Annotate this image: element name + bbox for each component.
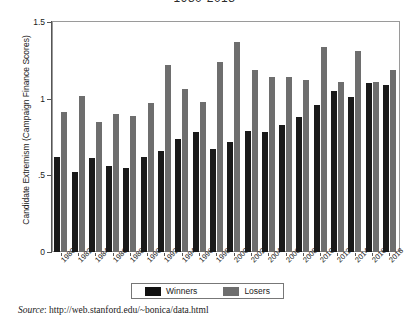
- bar-losers: [182, 89, 188, 252]
- bar-winners: [262, 132, 268, 252]
- chart-legend: Winners Losers: [131, 283, 284, 299]
- bar-losers: [79, 96, 85, 252]
- bar-group: [89, 22, 106, 252]
- y-tick-mark: [47, 175, 51, 176]
- bar-losers: [148, 103, 154, 252]
- source-note: Source: http://web.stanford.edu/~bonica/…: [18, 305, 209, 315]
- bar-losers: [61, 112, 67, 252]
- legend-item-winners: Winners: [145, 286, 197, 296]
- bar-group: [227, 22, 244, 252]
- y-tick-label: 1: [40, 94, 45, 104]
- bar-losers: [269, 77, 275, 252]
- bar-winners: [366, 83, 372, 252]
- bar-group: [262, 22, 279, 252]
- legend-item-losers: Losers: [223, 286, 270, 296]
- bar-group: [331, 22, 348, 252]
- bar-losers: [252, 70, 258, 252]
- bar-group: [279, 22, 296, 252]
- bar-winners: [383, 85, 389, 252]
- source-word: Source: [18, 305, 44, 315]
- bar-group: [383, 22, 400, 252]
- bar-winners: [123, 168, 129, 252]
- chart-title: 1980-2018: [0, 0, 409, 5]
- bar-group: [175, 22, 192, 252]
- bar-winners: [193, 132, 199, 252]
- bar-group: [141, 22, 158, 252]
- y-tick-label: 1.5: [33, 17, 45, 27]
- bar-losers: [390, 70, 396, 252]
- bar-losers: [338, 82, 344, 252]
- bar-winners: [175, 139, 181, 252]
- bar-losers: [217, 62, 223, 252]
- bar-group: [158, 22, 175, 252]
- bar-losers: [286, 77, 292, 252]
- bar-series-container: [53, 22, 399, 252]
- bar-winners: [296, 117, 302, 252]
- bar-winners: [279, 125, 285, 252]
- bar-group: [366, 22, 383, 252]
- bar-winners: [245, 131, 251, 252]
- legend-label-winners: Winners: [166, 286, 197, 296]
- bar-winners: [54, 157, 60, 252]
- bar-winners: [106, 166, 112, 252]
- y-axis-label: Candidate Extremism (Campaign Finance Sc…: [21, 5, 31, 255]
- legend-label-losers: Losers: [244, 286, 270, 296]
- bar-losers: [96, 122, 102, 252]
- bar-group: [193, 22, 210, 252]
- bar-group: [348, 22, 365, 252]
- bar-group: [210, 22, 227, 252]
- bar-losers: [373, 82, 379, 252]
- bar-winners: [331, 91, 337, 252]
- bar-losers: [303, 80, 309, 252]
- y-tick-mark: [47, 252, 51, 253]
- legend-swatch-losers-icon: [223, 287, 239, 296]
- bar-group: [314, 22, 331, 252]
- bar-losers: [355, 51, 361, 252]
- bar-winners: [227, 142, 233, 252]
- bar-losers: [234, 42, 240, 252]
- bar-group: [72, 22, 89, 252]
- bar-winners: [72, 172, 78, 252]
- bar-group: [123, 22, 140, 252]
- y-tick-mark: [47, 22, 51, 23]
- y-tick-label: .5: [38, 170, 45, 180]
- bar-group: [54, 22, 71, 252]
- bar-losers: [130, 116, 136, 252]
- y-tick-label: 0: [40, 247, 45, 257]
- bar-winners: [141, 157, 147, 252]
- bar-winners: [314, 105, 320, 252]
- bar-losers: [165, 65, 171, 252]
- source-url: http://web.stanford.edu/~bonica/data.htm…: [49, 305, 208, 315]
- legend-swatch-winners-icon: [145, 287, 161, 296]
- figure-canvas: 1980-2018 Candidate Extremism (Campaign …: [0, 0, 409, 323]
- bar-winners: [89, 158, 95, 252]
- bar-winners: [348, 97, 354, 252]
- bar-losers: [113, 114, 119, 252]
- bar-winners: [158, 151, 164, 252]
- y-tick-mark: [47, 99, 51, 100]
- bar-losers: [200, 102, 206, 252]
- bar-group: [296, 22, 313, 252]
- bar-group: [106, 22, 123, 252]
- bar-losers: [321, 47, 327, 252]
- bar-group: [245, 22, 262, 252]
- bar-winners: [210, 149, 216, 252]
